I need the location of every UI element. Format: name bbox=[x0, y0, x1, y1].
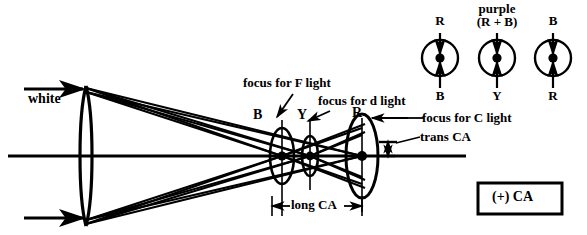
label-focus-f-light: focus for F light bbox=[243, 76, 331, 90]
spot-1-top-label: R bbox=[425, 14, 455, 28]
spot-diagram-group bbox=[422, 33, 571, 88]
spot-1-bottom-label: B bbox=[425, 89, 455, 103]
spot-2-top-label-line2: (R + B) bbox=[467, 15, 527, 29]
spot-2-bottom-label: Y bbox=[482, 89, 512, 103]
spot-3-top-label: B bbox=[538, 14, 568, 28]
incoming-rays bbox=[24, 89, 83, 218]
spot-diagram-2 bbox=[479, 33, 515, 88]
label-trans-ca: trans CA bbox=[420, 130, 471, 144]
spot-diagram-1 bbox=[422, 33, 458, 88]
label-point-y: Y bbox=[297, 108, 307, 123]
label-white: white bbox=[28, 92, 61, 107]
arrow-focus-d bbox=[308, 111, 330, 121]
spot-3-bottom-label: R bbox=[538, 89, 568, 103]
arrow-focus-f bbox=[277, 94, 293, 117]
label-long-ca: long CA bbox=[291, 198, 337, 212]
label-point-b: B bbox=[253, 108, 262, 123]
label-sign-box: (+) CA bbox=[492, 190, 533, 205]
label-point-r: R bbox=[352, 106, 362, 121]
optics-diagram-canvas: white focus for F light focus for d ligh… bbox=[0, 0, 587, 235]
trans-ca-leader bbox=[396, 137, 420, 143]
trans-ca-dimension bbox=[379, 137, 420, 157]
label-focus-c-light: focus for C light bbox=[422, 111, 512, 125]
spot-diagram-3 bbox=[535, 33, 571, 88]
